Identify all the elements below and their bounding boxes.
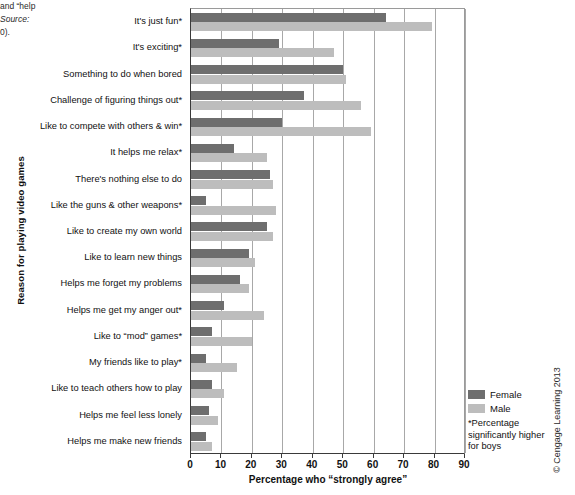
bar-male bbox=[191, 416, 218, 425]
bar-group bbox=[191, 429, 464, 455]
category-label: Helps me get my anger out* bbox=[22, 305, 182, 315]
bar-female bbox=[191, 249, 249, 258]
bar-female bbox=[191, 39, 279, 48]
bar-male bbox=[191, 363, 237, 372]
legend-label: Female bbox=[490, 389, 522, 400]
bar-male bbox=[191, 127, 371, 136]
x-axis-tick bbox=[220, 454, 221, 458]
bar-group bbox=[191, 114, 464, 140]
bar-group bbox=[191, 9, 464, 35]
category-label: Like to learn new things bbox=[22, 252, 182, 262]
bar-female bbox=[191, 196, 206, 205]
bar-female bbox=[191, 91, 304, 100]
bar-female bbox=[191, 275, 240, 284]
bar-female bbox=[191, 144, 234, 153]
category-label: Like to create my own world bbox=[22, 226, 182, 236]
bar-chart: Reason for playing video games It's just… bbox=[0, 0, 575, 495]
category-label: Like to teach others how to play bbox=[22, 383, 182, 393]
x-axis-tick bbox=[464, 454, 465, 458]
x-axis-tick bbox=[434, 454, 435, 458]
x-axis-tick-label: 90 bbox=[452, 459, 476, 470]
x-axis-tick-label: 20 bbox=[239, 459, 263, 470]
bar-female bbox=[191, 222, 267, 231]
category-label: It helps me relax* bbox=[22, 147, 182, 157]
category-label: Helps me forget my problems bbox=[22, 278, 182, 288]
legend-footnote-line-1: *Percentage bbox=[468, 418, 554, 430]
x-axis-tick-label: 10 bbox=[208, 459, 232, 470]
bar-female bbox=[191, 65, 343, 74]
bar-group bbox=[191, 298, 464, 324]
bar-group bbox=[191, 193, 464, 219]
x-axis-tick-label: 80 bbox=[422, 459, 446, 470]
legend-swatch-female bbox=[468, 390, 485, 399]
bar-group bbox=[191, 219, 464, 245]
category-label: My friends like to play* bbox=[22, 357, 182, 367]
bar-male bbox=[191, 311, 264, 320]
bar-male bbox=[191, 153, 267, 162]
category-label-column: It's just fun*It's exciting*Something to… bbox=[24, 8, 186, 454]
x-axis-tick-label: 30 bbox=[269, 459, 293, 470]
legend-footnote-line-2: significantly higher bbox=[468, 430, 554, 442]
category-label: Helps me feel less lonely bbox=[22, 410, 182, 420]
x-axis-title: Percentage who “strongly agree” bbox=[190, 474, 466, 485]
legend-item-female: Female bbox=[468, 389, 554, 400]
category-label: Like to compete with others & win* bbox=[22, 121, 182, 131]
category-label: Like to “mod” games* bbox=[22, 331, 182, 341]
x-axis-tick-label: 40 bbox=[300, 459, 324, 470]
bar-female bbox=[191, 406, 209, 415]
x-axis-tick bbox=[190, 454, 191, 458]
x-axis-tick bbox=[342, 454, 343, 458]
category-label: Challenge of figuring things out* bbox=[22, 95, 182, 105]
legend-items: FemaleMale bbox=[468, 389, 554, 414]
bar-female bbox=[191, 354, 206, 363]
category-label: There's nothing else to do bbox=[22, 174, 182, 184]
category-label: Something to do when bored bbox=[22, 69, 182, 79]
bar-female bbox=[191, 118, 282, 127]
bar-female bbox=[191, 170, 270, 179]
bar-group bbox=[191, 376, 464, 402]
bar-group bbox=[191, 324, 464, 350]
bar-group bbox=[191, 88, 464, 114]
bar-male bbox=[191, 180, 273, 189]
bar-male bbox=[191, 258, 255, 267]
category-label: Helps me make new friends bbox=[22, 436, 182, 446]
x-axis-tick bbox=[403, 454, 404, 458]
x-axis-tick-label: 70 bbox=[391, 459, 415, 470]
legend-footnote-line-3: for boys bbox=[468, 441, 554, 453]
legend-footnote: *Percentage significantly higher for boy… bbox=[468, 418, 554, 453]
legend-item-male: Male bbox=[468, 403, 554, 414]
bar-male bbox=[191, 22, 432, 31]
category-label: It's just fun* bbox=[22, 16, 182, 26]
x-axis-tick-label: 60 bbox=[361, 459, 385, 470]
x-axis-tick bbox=[373, 454, 374, 458]
bar-group bbox=[191, 35, 464, 61]
legend: FemaleMale *Percentage significantly hig… bbox=[468, 389, 554, 453]
bar-male bbox=[191, 101, 361, 110]
x-axis-tick bbox=[312, 454, 313, 458]
plot-area bbox=[190, 8, 465, 454]
bar-group bbox=[191, 245, 464, 271]
category-label: Like the guns & other weapons* bbox=[22, 200, 182, 210]
bar-male bbox=[191, 75, 346, 84]
gridline bbox=[465, 9, 466, 453]
bar-female bbox=[191, 301, 224, 310]
bar-male bbox=[191, 284, 249, 293]
bar-group bbox=[191, 350, 464, 376]
bar-male bbox=[191, 206, 276, 215]
bar-female bbox=[191, 13, 386, 22]
bar-group bbox=[191, 403, 464, 429]
x-axis-tick-label: 50 bbox=[330, 459, 354, 470]
bar-male bbox=[191, 389, 224, 398]
legend-swatch-male bbox=[468, 404, 485, 413]
x-axis-tick bbox=[251, 454, 252, 458]
category-label: It's exciting* bbox=[22, 42, 182, 52]
bar-group bbox=[191, 166, 464, 192]
x-axis-tick-labels: 0102030405060708090 bbox=[190, 459, 466, 473]
bar-female bbox=[191, 327, 212, 336]
legend-label: Male bbox=[490, 403, 511, 414]
bar-female bbox=[191, 432, 206, 441]
x-axis-tick bbox=[281, 454, 282, 458]
bar-male bbox=[191, 48, 334, 57]
bar-group bbox=[191, 61, 464, 87]
bar-male bbox=[191, 442, 212, 451]
